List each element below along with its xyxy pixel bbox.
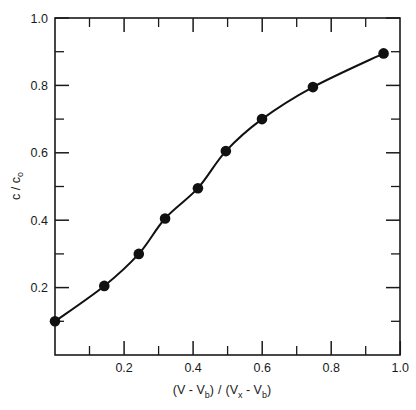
data-point	[99, 281, 110, 292]
y-axis-title: c / co	[9, 172, 25, 200]
x-axis-ticks	[90, 18, 401, 355]
y-tick-label: 1.0	[31, 12, 48, 26]
y-tick-labels: 1.0 0.8 0.6 0.4 0.2	[31, 12, 48, 296]
x-axis-title-close1: )	[210, 383, 214, 397]
y-axis-ticks	[55, 18, 400, 321]
data-point	[50, 316, 61, 327]
data-point	[308, 82, 319, 93]
x-axis-title-mid: - V	[242, 383, 262, 397]
data-point	[257, 114, 268, 125]
x-tick-label: 1.0	[392, 361, 409, 375]
y-tick-label: 0.8	[31, 79, 48, 93]
x-tick-label: 0.2	[115, 361, 132, 375]
x-axis-title-open1: (V - V	[173, 383, 206, 397]
x-axis-title: (V - Vb)/(Vx - Vb)	[173, 383, 271, 400]
x-tick-label: 0.6	[254, 361, 271, 375]
data-point	[221, 146, 232, 157]
data-point	[378, 48, 389, 59]
breakthrough-curve-chart: 1.0 0.8 0.6 0.4 0.2 0.2 0.4 0.6 0.8 1.0 …	[0, 0, 416, 410]
plot-frame	[55, 18, 400, 355]
data-point-markers	[50, 48, 389, 327]
x-tick-label: 0.4	[184, 361, 201, 375]
y-axis-title-subscript: o	[15, 172, 25, 177]
x-tick-label: 0.8	[323, 361, 340, 375]
data-point	[160, 213, 171, 224]
x-axis-title-text: (V - Vb)/(Vx - Vb)	[173, 383, 271, 400]
plot-frame-rect	[55, 18, 400, 355]
x-tick-labels: 0.2 0.4 0.6 0.8 1.0	[115, 361, 409, 375]
y-axis-title-text: c / co	[9, 172, 25, 200]
y-tick-label: 0.4	[31, 214, 48, 228]
x-axis-title-close2: )	[267, 383, 271, 397]
y-tick-label: 0.6	[31, 146, 48, 160]
y-axis-title-main: c / c	[9, 177, 23, 200]
data-point	[193, 183, 204, 194]
x-axis-title-slash: /	[218, 383, 222, 397]
y-tick-label: 0.2	[31, 281, 48, 295]
chart-figure-root: 1.0 0.8 0.6 0.4 0.2 0.2 0.4 0.6 0.8 1.0 …	[0, 0, 416, 410]
x-axis-title-open2: (V	[225, 383, 238, 397]
data-point	[133, 249, 144, 260]
